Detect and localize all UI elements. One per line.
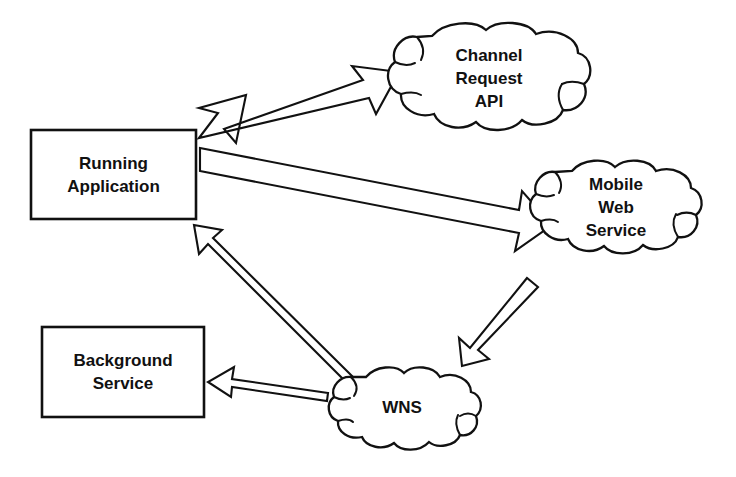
running-application-label-line-1: Running (79, 154, 148, 173)
background-service-box[interactable] (42, 327, 204, 417)
arrow-wns-background (208, 367, 328, 401)
connector-mobile-web-service-to-wns (459, 278, 538, 366)
connector-wns-to-background-service (208, 367, 328, 401)
mobile-web-service-label-line-3: Service (586, 221, 647, 240)
node-channel-request-api[interactable]: Channel Request API (388, 23, 590, 130)
mobile-web-service-label-line-2: Web (598, 198, 634, 217)
running-application-box[interactable] (31, 130, 196, 219)
node-wns[interactable]: WNS (329, 367, 481, 449)
background-service-label-line-1: Background (73, 351, 172, 370)
node-running-application[interactable]: Running Application (31, 130, 196, 219)
arrow-wns-app (194, 225, 353, 383)
node-mobile-web-service[interactable]: Mobile Web Service (530, 161, 701, 254)
background-service-label-line-2: Service (93, 374, 154, 393)
architecture-diagram: Running Application Background Service C… (0, 0, 736, 477)
arrow-mobile-wns (459, 278, 538, 366)
connector-app-to-channel-api (199, 66, 399, 143)
running-application-label-line-2: Application (67, 177, 160, 196)
connector-wns-to-running-application (194, 225, 353, 383)
node-background-service[interactable]: Background Service (42, 327, 204, 417)
diagram-canvas: Running Application Background Service C… (0, 0, 736, 477)
wns-label: WNS (382, 398, 422, 417)
connector-app-to-mobile-web-service (200, 148, 552, 251)
arrow-app-mobile (200, 148, 552, 251)
channel-request-api-label-line-1: Channel (455, 46, 522, 65)
double-arrow-body (199, 66, 399, 143)
channel-request-api-label-line-3: API (475, 92, 503, 111)
channel-request-api-label-line-2: Request (455, 69, 522, 88)
mobile-web-service-label-line-1: Mobile (589, 175, 643, 194)
